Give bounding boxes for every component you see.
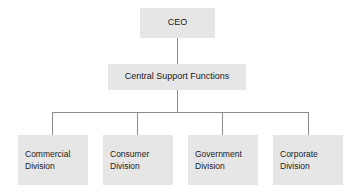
org-chart: CEO Central Support Functions Commercial… <box>0 0 357 194</box>
connector-drop-government <box>222 112 223 135</box>
connector-horizontal-bus <box>52 112 309 113</box>
node-division-label-line2: Division <box>110 161 140 172</box>
node-division-corporate[interactable]: Corporate Division <box>273 135 343 185</box>
node-division-label-line1: Commercial <box>25 149 70 160</box>
node-division-commercial[interactable]: Commercial Division <box>18 135 88 185</box>
node-division-consumer[interactable]: Consumer Division <box>103 135 173 185</box>
node-ceo[interactable]: CEO <box>140 8 215 38</box>
node-division-label-line1: Government <box>195 149 242 160</box>
node-central-support-functions[interactable]: Central Support Functions <box>108 64 246 90</box>
connector-drop-consumer <box>137 112 138 135</box>
connector-drop-commercial <box>52 112 53 135</box>
connector-central-to-bus <box>177 90 178 112</box>
node-division-label-line1: Corporate <box>280 149 318 160</box>
node-division-label-line2: Division <box>25 161 55 172</box>
node-division-government[interactable]: Government Division <box>188 135 258 185</box>
connector-ceo-to-central <box>177 38 178 64</box>
node-ceo-label: CEO <box>168 17 188 28</box>
node-central-label: Central Support Functions <box>125 71 230 82</box>
connector-drop-corporate <box>308 112 309 135</box>
node-division-label-line2: Division <box>280 161 310 172</box>
node-division-label-line1: Consumer <box>110 149 149 160</box>
node-division-label-line2: Division <box>195 161 225 172</box>
